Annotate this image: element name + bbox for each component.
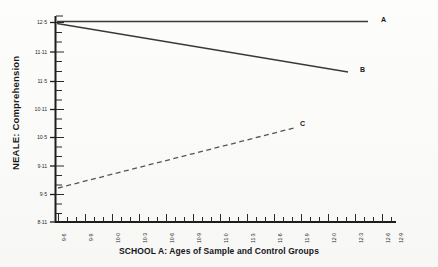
y-tick-label: 11·11 [21,49,47,55]
x-ticks [59,214,392,222]
y-tick-label: 9·11 [21,163,47,169]
x-tick-label: 10·3 [142,233,148,243]
series-label-c: C [300,120,305,127]
x-tick-label: 10·9 [196,233,202,243]
y-tick-label: 9·5 [21,191,47,197]
y-tick-label: 11·5 [21,78,47,84]
x-axis-title: SCHOOL A: Ages of Sample and Control Gro… [0,246,438,256]
series-line-b [57,24,348,73]
chart-figure: NEALE: Comprehension [0,0,438,267]
plot-area [0,0,438,267]
y-tick-label: 12·5 [21,19,47,25]
series-line-c [58,128,294,188]
x-tick-label: 12·9 [398,233,404,243]
x-tick-label: 11·0 [223,233,229,243]
x-tick-label: 9·6 [61,234,67,241]
y-tick-label: 10·11 [21,106,47,112]
x-tick-label: 12·6 [385,233,391,243]
y-major-ticks [50,23,55,223]
x-tick-label: 11·6 [277,233,283,243]
series-label-a: A [381,16,386,23]
x-tick-label: 12·0 [331,233,337,243]
x-tick-label: 11·3 [250,233,256,243]
x-tick-label: 10·0 [115,233,121,243]
x-tick-label: 10·6 [169,233,175,243]
series-label-b: B [360,66,365,73]
y-minor-ticks [56,16,64,214]
x-tick-label: 12·3 [358,233,364,243]
y-tick-label: 8·11 [21,219,47,225]
x-tick-label: 9·9 [88,234,94,241]
x-tick-label: 11·9 [304,233,310,243]
y-tick-label: 10·5 [21,134,47,140]
